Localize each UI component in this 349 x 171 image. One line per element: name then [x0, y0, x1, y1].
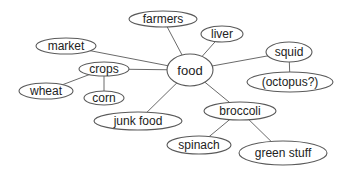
node-farmers: farmers	[129, 11, 197, 27]
node-food: food	[167, 54, 213, 86]
node-broccoli: broccoli	[204, 102, 276, 120]
node-label: liver	[211, 27, 233, 41]
node-wheat: wheat	[19, 83, 73, 99]
concept-map-diagram: foodfarmersliversquid(octopus?)marketcro…	[0, 0, 349, 171]
node-squid: squid	[266, 42, 312, 62]
node-crops: crops	[79, 62, 129, 76]
node-corn: corn	[84, 91, 124, 105]
node-octopus: (octopus?)	[247, 72, 333, 92]
node-label: farmers	[143, 12, 184, 26]
node-label: (octopus?)	[262, 75, 319, 89]
concept-map-canvas: foodfarmersliversquid(octopus?)marketcro…	[0, 0, 349, 171]
node-junkfood: junk food	[94, 112, 182, 130]
nodes-layer: foodfarmersliversquid(octopus?)marketcro…	[19, 11, 333, 165]
node-greenstuff: green stuff	[239, 141, 327, 165]
node-label: corn	[92, 91, 115, 105]
node-liver: liver	[201, 26, 243, 42]
node-label: wheat	[29, 84, 63, 98]
node-label: green stuff	[255, 146, 312, 160]
node-label: market	[48, 39, 85, 53]
node-label: squid	[275, 45, 304, 59]
node-label: food	[177, 63, 202, 78]
node-label: spinach	[178, 138, 219, 152]
node-market: market	[36, 38, 96, 54]
node-label: junk food	[113, 114, 163, 128]
node-spinach: spinach	[167, 136, 231, 154]
node-label: broccoli	[219, 104, 260, 118]
node-label: crops	[89, 62, 118, 76]
